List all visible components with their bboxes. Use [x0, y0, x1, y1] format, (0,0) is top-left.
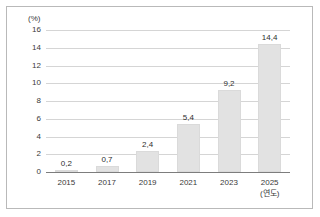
gridline: 16	[46, 30, 290, 31]
x-axis-tick-label: 2025(연도)	[260, 178, 279, 200]
bar: 9,2	[218, 90, 241, 172]
bar-value-label: 14,4	[262, 34, 278, 42]
bar: 2,4	[136, 151, 159, 172]
bar-value-label: 5,4	[183, 114, 194, 122]
bar-value-label: 9,2	[223, 80, 234, 88]
y-axis-tick-label: 14	[32, 44, 41, 52]
bar: 0,2	[55, 170, 78, 172]
x-axis-tick-label: 2021	[179, 178, 197, 189]
x-axis-tick-label: 2023	[220, 178, 238, 189]
plot-area: 02468101214160,220150,720172,420195,4202…	[46, 30, 290, 172]
bar: 5,4	[177, 124, 200, 172]
bar-value-label: 2,4	[142, 141, 153, 149]
bar-value-label: 0,2	[61, 160, 72, 168]
bar-value-label: 0,7	[101, 156, 112, 164]
gridline: 12	[46, 66, 290, 67]
y-axis-tick-label: 12	[32, 62, 41, 70]
y-axis-tick-label: 10	[32, 79, 41, 87]
gridline: 6	[46, 119, 290, 120]
x-axis-tick-label: 2015	[57, 178, 75, 189]
y-axis-tick-label: 2	[37, 150, 41, 158]
x-axis-tick-label: 2019	[139, 178, 157, 189]
x-axis-tick-label: 2017	[98, 178, 116, 189]
y-axis-tick-label: 8	[37, 97, 41, 105]
y-axis-tick-label: 16	[32, 26, 41, 34]
y-axis-tick-label: 0	[37, 168, 41, 176]
x-axis-unit-label: (연도)	[260, 189, 279, 200]
gridline: 10	[46, 83, 290, 84]
bar: 0,7	[96, 166, 119, 172]
gridline: 8	[46, 101, 290, 102]
y-axis-unit-label: (%)	[28, 15, 40, 23]
bar: 14,4	[258, 44, 281, 172]
x-axis-baseline: 0	[46, 172, 290, 173]
y-axis-tick-label: 4	[37, 133, 41, 141]
chart-figure: (%) 02468101214160,220150,720172,420195,…	[0, 0, 320, 217]
gridline: 2	[46, 154, 290, 155]
gridline: 14	[46, 48, 290, 49]
y-axis-tick-label: 6	[37, 115, 41, 123]
gridline: 4	[46, 137, 290, 138]
